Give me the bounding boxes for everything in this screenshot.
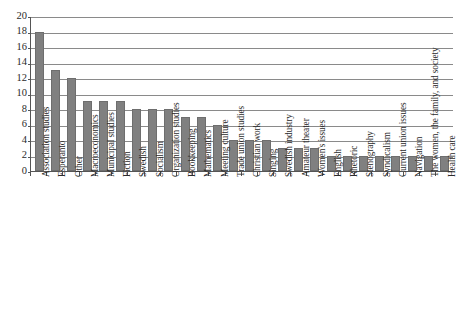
x-axis-label-slot: Mathematics [192,177,208,322]
x-axis-label: Macroeconomics [91,114,100,177]
x-axis-label: Bookkeeping [188,129,197,177]
x-axis-label-slot: Christian work [241,177,257,322]
x-axis-label-slot: Socialism [144,177,160,322]
x-axis-label: Organization studies [172,102,181,177]
x-axis-label: English [334,149,343,177]
x-axis-label: Other [75,156,84,177]
x-axis-label-slot: English [322,177,338,322]
x-axis-label-slot: Amateur theater [290,177,306,322]
x-axis-label: Amateur theater [302,118,311,177]
x-axis-label-slot: Esperanto [46,177,62,322]
y-axis-tick-label: 14 [17,57,28,68]
x-axis-label-slot: Organization studies [160,177,176,322]
y-axis-tick-label: 4 [22,135,27,146]
x-axis-label-slot: Macroeconomics [79,177,95,322]
x-axis-label: Swedish industry [285,114,294,177]
x-axis-label-slot: Navigation [403,177,419,322]
x-axis-label-slot: Association studies [30,177,46,322]
y-axis-tick-label: 20 [17,11,28,22]
x-axis-label: Christian work [253,123,262,177]
x-axis-label-slot: Health care [435,177,451,322]
y-axis-tick-label: 6 [22,119,27,130]
x-axis-label: Rhetoric [350,146,359,177]
x-axis-label: Meeting culture [221,119,230,177]
x-axis-label: Esperanto [58,141,67,177]
x-axis-label-slot: Bookkeeping [176,177,192,322]
x-axis-label: Women's issues [318,120,327,177]
x-axis-label-slot: Swedish [127,177,143,322]
x-axis-label: Navigation [415,137,424,177]
x-axis-labels-group: Association studiesEsperantoOtherMacroec… [30,177,452,322]
x-axis-label: Singing [269,149,278,177]
x-axis-label-slot: The women, the family, and society [419,177,435,322]
x-axis-label: Socialism [156,141,165,177]
x-axis-label-slot: Fiction [111,177,127,322]
x-axis-label-slot: Women's issues [306,177,322,322]
x-axis-label: Mathematics [204,130,213,177]
x-axis-label-slot: Swedish industry [273,177,289,322]
x-axis-label: Fiction [123,151,132,177]
y-axis-tick-label: 0 [22,166,27,177]
x-axis-label: Municipal studies [107,112,116,177]
y-axis-tick-label: 8 [22,104,27,115]
x-axis-label-slot: Rhetoric [338,177,354,322]
y-axis-tick-label: 10 [17,88,28,99]
x-axis-label: Trade union studies [237,106,246,177]
x-axis-label-slot: Municipal studies [95,177,111,322]
x-axis-label-slot: Syndicalism [371,177,387,322]
x-axis-label: Health care [448,136,457,177]
y-axis-tick-label: 18 [17,26,28,37]
x-axis-tick-mark [30,172,31,176]
x-axis-label: Association studies [42,107,51,177]
x-axis-label: Swedish [139,146,148,177]
y-axis-tick-label: 2 [22,150,27,161]
y-axis-tick-label: 16 [17,42,28,53]
bar-chart: 02468101214161820 Association studiesEsp… [0,0,460,324]
x-axis-label-slot: Trade union studies [225,177,241,322]
x-axis-label: Stenography [366,131,375,177]
x-axis-label-slot: Singing [257,177,273,322]
x-axis-label-slot: Other [62,177,78,322]
x-axis-label: Syndicalism [383,132,392,177]
x-axis-label-slot: Stenography [354,177,370,322]
y-axis-tick-label: 12 [17,73,28,84]
x-axis-label: Current union issues [399,103,408,177]
x-axis-label-slot: Meeting culture [208,177,224,322]
x-axis-label-slot: Current union issues [387,177,403,322]
x-axis-label: The women, the family, and society [431,48,440,177]
